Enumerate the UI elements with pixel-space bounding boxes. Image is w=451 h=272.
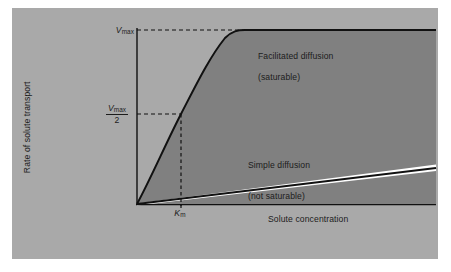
x-tick-label-km: Km: [168, 208, 192, 220]
y-tick-label-vmax: Vmax: [104, 25, 134, 37]
annotation-facilitated-diffusion: Facilitated diffusion (saturable): [248, 40, 333, 93]
vmax-subscript: max: [122, 28, 134, 35]
vmax-half-numerator: Vmax: [100, 103, 134, 114]
annotation-not-saturable: (not saturable): [248, 191, 305, 202]
km-subscript: m: [180, 211, 185, 218]
annotation-simple-diffusion: Simple diffusion: [248, 160, 310, 171]
vmax-half-subscript: max: [114, 106, 126, 113]
plot-canvas: [0, 0, 451, 272]
vmax-half-symbol: V: [108, 103, 114, 113]
y-axis-title: Rate of solute transport: [22, 57, 33, 197]
annotation-facilitated-line2: (saturable): [258, 72, 300, 82]
figure-screenshot: Rate of solute transport Solute concentr…: [0, 0, 451, 272]
annotation-facilitated-line1: Facilitated diffusion: [258, 51, 334, 61]
vmax-half-denominator: 2: [100, 115, 134, 125]
x-axis-title: Solute concentration: [268, 214, 348, 225]
vmax-symbol: V: [116, 25, 122, 35]
y-tick-label-vmax-half: Vmax 2: [100, 103, 134, 125]
